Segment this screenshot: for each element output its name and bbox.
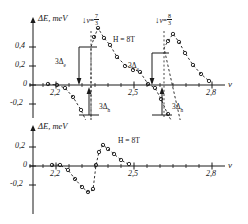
y-axis-arrow-bottom [30,125,35,131]
fraction-numerator-7-3: 7 [94,13,99,20]
x-tick-label-22-bottom: 2,2 [50,170,60,178]
delta-h-prefix-left: 3Δ [99,102,108,111]
chart-panel-bottom: ΔE, meV ν 0,2 0 -0,2 2,2 2,5 2,8 H = 8T [0,118,248,224]
delta-e-label-left: 3Δe [55,58,66,68]
y-axis-label-top: ΔE, meV [38,14,68,23]
y-tick-label-0-bottom: 0 [23,161,27,169]
y-tick-label-04-top: 0,4 [15,42,25,50]
x-axis-label-top: ν [228,80,232,89]
fraction-numerator-8-3: 8 [167,13,172,20]
delta-h-sub-right: h [181,107,184,113]
y-tick-label-02-top: 0,2 [15,61,25,69]
delta-h-sub-left: h [108,107,111,113]
nu-marker-8-3: ↓ν=83 [155,10,172,26]
x-tick-label-25-bottom: 2,5 [128,170,138,178]
fraction-denominator-7-3: 3 [94,20,99,26]
delta-h-prefix-right: 3Δ [172,102,181,111]
delta-e-prefix-left: 3Δ [55,57,64,66]
delta-e-arrow-right [150,78,155,85]
delta-h-measure-right [152,92,172,115]
data-curve-bottom [52,145,128,192]
field-label-bottom: H = 8T [118,137,140,145]
delta-e-measure-left [79,47,97,83]
delta-e-arrow-left [77,78,82,85]
data-points-bottom [50,143,130,193]
field-label-top: H = 8T [113,36,135,44]
fraction-7-3: 73 [94,13,99,26]
y-axis-label-bottom: ΔE, meV [38,122,68,131]
x-tick-label-22-top: 2,2 [50,89,60,97]
y-tick-label-0-top: 0 [23,80,27,88]
delta-e-sub-right: e [137,66,139,72]
y-tick-label-neg02-top: -0,2 [10,99,23,107]
y-tick-label-02-bottom: 0,2 [15,142,25,150]
fraction-denominator-8-3: 3 [167,20,172,26]
y-tick-label-neg02-bottom: -0,2 [10,180,23,188]
figure-root: ΔE, meV ν 0,4 0,2 0 -0,2 2,2 2,5 2,8 H =… [0,0,248,224]
y-axis-arrow-top [30,17,35,23]
delta-e-label-right: 3Δe [128,62,139,72]
x-axis-label-bottom: ν [228,161,232,170]
x-tick-label-28-top: 2,8 [206,89,216,97]
x-tick-label-28-bottom: 2,8 [206,170,216,178]
x-tick-label-25-top: 2,5 [128,89,138,97]
delta-e-sub-left: e [64,62,66,68]
delta-h-label-right: 3Δh [172,103,183,113]
delta-e-prefix-right: 3Δ [128,61,137,70]
nu-marker-7-3: ↓ν=73 [82,10,99,26]
fraction-8-3: 83 [167,13,172,26]
chart-panel-top: ΔE, meV ν 0,4 0,2 0 -0,2 2,2 2,5 2,8 H =… [0,0,248,120]
delta-h-label-left: 3Δh [99,103,110,113]
